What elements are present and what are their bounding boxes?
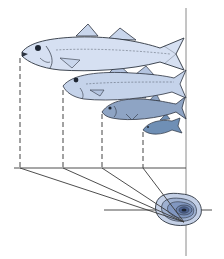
otolith-back-calculation-diagram xyxy=(0,0,224,259)
fish-age-4-icon xyxy=(22,24,184,71)
convergence-lines xyxy=(20,168,184,222)
diagram-canvas xyxy=(0,0,224,259)
otolith-icon xyxy=(156,193,202,225)
